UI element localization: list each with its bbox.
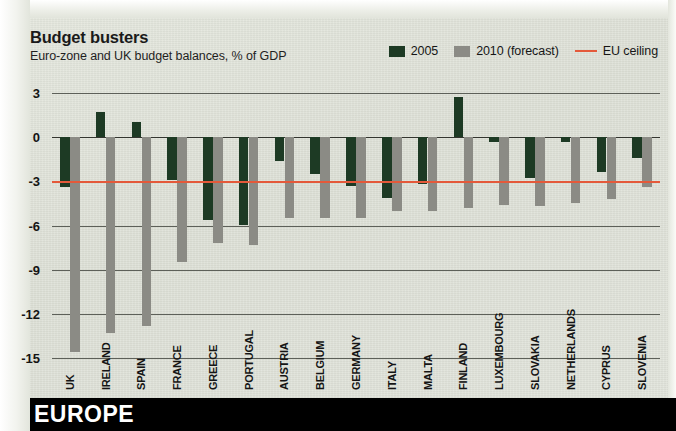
x-label-slot: GREECE xyxy=(195,358,231,390)
x-label-slot: UK xyxy=(52,358,88,390)
y-tick-label: 3 xyxy=(33,86,40,101)
bar-group xyxy=(338,93,374,358)
bar-2005 xyxy=(96,112,106,137)
y-tick-label: -6 xyxy=(28,218,40,233)
bar-group xyxy=(231,93,267,358)
bar-2005 xyxy=(167,137,177,180)
bar-2005 xyxy=(632,137,642,158)
top-margin xyxy=(0,0,676,18)
bar-2010 xyxy=(392,137,402,211)
bar-2010 xyxy=(607,137,617,199)
x-label-slot: GERMANY xyxy=(338,358,374,390)
bar-2005 xyxy=(132,122,142,137)
x-label-slot: PORTUGAL xyxy=(231,358,267,390)
legend-item: EU ceiling xyxy=(575,44,658,58)
x-label-slot: FRANCE xyxy=(159,358,195,390)
bar-group xyxy=(445,93,481,358)
x-tick-label: SPAIN xyxy=(135,358,147,390)
x-label-slot: ITALY xyxy=(374,358,410,390)
bar-2010 xyxy=(642,137,652,187)
bar-group xyxy=(195,93,231,358)
eu-ceiling-reference-line xyxy=(52,181,660,183)
bar-2010 xyxy=(249,137,259,244)
x-tick-label: ITALY xyxy=(386,361,398,390)
bar-2005 xyxy=(418,137,428,184)
y-tick-label: 0 xyxy=(33,130,40,145)
bar-group xyxy=(588,93,624,358)
section-banner: EUROPE xyxy=(30,398,676,431)
plot-area xyxy=(52,93,660,358)
bar-group xyxy=(267,93,303,358)
legend-item-label: EU ceiling xyxy=(603,44,658,58)
legend-swatch-2010 xyxy=(454,46,470,57)
bar-2010 xyxy=(356,137,366,218)
bar-group xyxy=(124,93,160,358)
bars-layer xyxy=(52,93,660,358)
bar-2010 xyxy=(464,137,474,208)
x-label-slot: MALTA xyxy=(410,358,446,390)
bar-2005 xyxy=(310,137,320,174)
x-label-slot: IRELAND xyxy=(88,358,124,390)
bar-group xyxy=(517,93,553,358)
bar-2005 xyxy=(489,137,499,141)
x-label-slot: SLOVAKIA xyxy=(517,358,553,390)
y-axis: 30-3-6-9-12-15 xyxy=(0,93,46,358)
section-banner-label: EUROPE xyxy=(30,401,134,428)
x-label-slot: FINLAND xyxy=(445,358,481,390)
bar-group xyxy=(553,93,589,358)
x-tick-label: UK xyxy=(64,375,76,391)
y-tick-label: -9 xyxy=(28,262,40,277)
y-tick-label: -3 xyxy=(28,174,40,189)
bar-2010 xyxy=(213,137,223,243)
bar-2005 xyxy=(60,137,70,187)
bar-2010 xyxy=(320,137,330,218)
bar-2005 xyxy=(203,137,213,219)
bar-2010 xyxy=(571,137,581,203)
y-tick-label: -12 xyxy=(21,306,40,321)
legend-item-label: 2010 (forecast) xyxy=(476,44,559,58)
x-label-slot: SLOVENIA xyxy=(624,358,660,390)
chart-legend: 20052010 (forecast)EU ceiling xyxy=(389,44,658,58)
right-margin xyxy=(668,0,676,398)
x-axis: UKIRELANDSPAINFRANCEGREECEPORTUGALAUSTRI… xyxy=(52,358,660,390)
bar-2010 xyxy=(535,137,545,206)
bar-group xyxy=(410,93,446,358)
bar-2005 xyxy=(561,137,571,141)
bar-2010 xyxy=(70,137,80,352)
bar-2010 xyxy=(428,137,438,211)
bar-group xyxy=(374,93,410,358)
bar-2010 xyxy=(285,137,295,218)
legend-item: 2010 (forecast) xyxy=(454,44,559,58)
x-label-slot: LUXEMBOURG xyxy=(481,358,517,390)
bar-group xyxy=(52,93,88,358)
y-tick-label: -15 xyxy=(21,351,40,366)
legend-swatch-2005 xyxy=(389,46,405,57)
bar-2005 xyxy=(454,97,464,137)
bar-2005 xyxy=(525,137,535,178)
bar-2010 xyxy=(499,137,509,205)
legend-item-label: 2005 xyxy=(411,44,438,58)
bar-2005 xyxy=(275,137,285,161)
legend-item: 2005 xyxy=(389,44,438,58)
x-label-slot: BELGIUM xyxy=(302,358,338,390)
bar-group xyxy=(302,93,338,358)
bar-2010 xyxy=(106,137,116,333)
chart-page: Budget busters Euro-zone and UK budget b… xyxy=(0,0,676,431)
bar-2005 xyxy=(382,137,392,197)
bar-group xyxy=(159,93,195,358)
x-label-slot: AUSTRIA xyxy=(267,358,303,390)
legend-rule-eu-ceiling xyxy=(575,50,597,52)
x-label-slot: CYPRUS xyxy=(588,358,624,390)
bar-2005 xyxy=(597,137,607,172)
bar-2005 xyxy=(346,137,356,186)
bar-group xyxy=(88,93,124,358)
bar-2010 xyxy=(177,137,187,262)
x-tick-label: MALTA xyxy=(422,354,434,390)
bar-2010 xyxy=(142,137,152,325)
x-label-slot: SPAIN xyxy=(124,358,160,390)
x-label-slot: NETHERLANDS xyxy=(553,358,589,390)
bar-group xyxy=(481,93,517,358)
bar-group xyxy=(624,93,660,358)
